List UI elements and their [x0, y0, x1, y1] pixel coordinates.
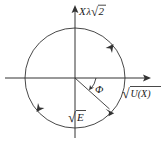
- lower-left-arrow-icon: [37, 103, 45, 112]
- horizontal-axis-label: √ U(X): [122, 86, 161, 101]
- energy-vector-label: √ E: [68, 110, 86, 125]
- upper-right-arrow-icon: [106, 44, 114, 53]
- vertical-axis-label: X λ √ 2: [78, 4, 106, 19]
- phase-space-figure: X λ √ 2 √ U(X) √ E Φ: [0, 0, 167, 144]
- vertical-axis-label-radicand: 2: [99, 5, 105, 17]
- energy-vector-arrowhead: [105, 109, 114, 117]
- energy-vector-label-radical: √: [68, 110, 76, 125]
- horizontal-axis-label-radical: √: [122, 86, 130, 101]
- phase-angle-label: Φ: [95, 83, 104, 95]
- phase-diagram-svg: X λ √ 2 √ U(X) √ E Φ: [0, 0, 167, 144]
- energy-vector-line: [75, 78, 110, 109]
- energy-vector-label-radicand: E: [76, 111, 84, 123]
- horizontal-axis-label-radicand: U(X): [131, 88, 152, 100]
